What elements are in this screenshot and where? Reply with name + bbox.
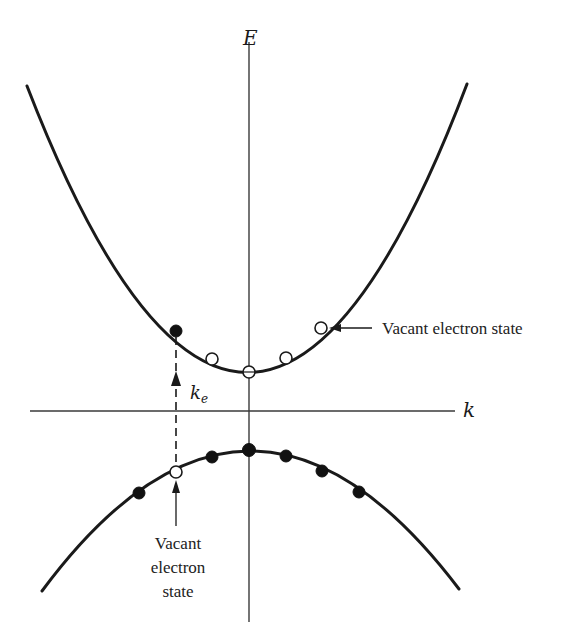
upper-vacant-label: Vacant electron state [382, 319, 523, 338]
energy-axis-label: E [242, 26, 258, 50]
valence-band-curve [42, 451, 459, 591]
lower-annotation-arrow-head-icon [172, 480, 180, 493]
vacant-state-circle [206, 353, 218, 365]
k-axis-label: k [463, 398, 475, 422]
lower-vacant-label-line2: electron [151, 558, 206, 577]
transition-arrow-head-icon [171, 371, 181, 386]
filled-state-dot [243, 444, 256, 457]
lower-vacant-label-line1: Vacant [155, 534, 202, 553]
filled-state-dot [133, 487, 145, 499]
vacant-state-circle [280, 352, 292, 364]
filled-state-dot [316, 465, 328, 477]
filled-state-dot [280, 450, 292, 462]
filled-state-dot [170, 325, 182, 337]
vacant-state-circle-annotated [170, 466, 182, 478]
filled-state-dot [206, 451, 218, 463]
vacant-state-circle-annotated [315, 322, 327, 334]
ke-label: ke [190, 382, 208, 406]
filled-state-dot [353, 486, 365, 498]
band-diagram: E k ke Vacant electron state Vacant elec… [0, 0, 584, 641]
lower-vacant-label-line3: state [162, 582, 193, 601]
